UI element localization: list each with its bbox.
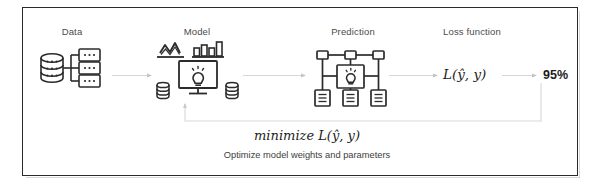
accuracy-value: 95% (543, 68, 568, 82)
neural-network-lightbulb-documents-icon (313, 48, 389, 108)
stage-label-prediction: Prediction (318, 26, 388, 37)
optimize-caption: Optimize model weights and parameters (0, 150, 614, 160)
stage-label-model: Model (167, 26, 227, 37)
loss-function-formula: L(ŷ, y) (443, 66, 486, 82)
stage-label-data: Data (42, 26, 102, 37)
monitor-lightbulb-analytics-icon (152, 40, 244, 106)
diagram-canvas: Data Model Prediction Loss function (0, 0, 614, 191)
stage-label-loss-function: Loss function (432, 26, 512, 37)
database-branching-records-icon (38, 48, 116, 106)
minimize-loss-formula: minimize L(ŷ, y) (0, 128, 614, 143)
